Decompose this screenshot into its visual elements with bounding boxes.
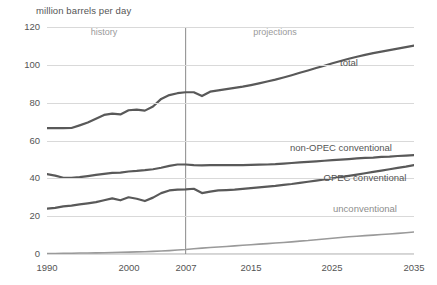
series-line-unconventional bbox=[47, 232, 414, 253]
x-tick-label-2000: 2000 bbox=[109, 262, 149, 273]
series-label-opec-conventional: OPEC conventional bbox=[324, 172, 407, 183]
plot-area: historyprojectionstotalnon-OPEC conventi… bbox=[47, 27, 414, 254]
gridline-y-100 bbox=[47, 65, 414, 66]
series-line-total bbox=[47, 46, 414, 129]
x-tick-label-2015: 2015 bbox=[231, 262, 271, 273]
y-tick-label-120: 120 bbox=[10, 22, 40, 32]
x-tick-label-2025: 2025 bbox=[312, 262, 352, 273]
y-tick-label-40: 40 bbox=[10, 173, 40, 183]
y-tick-label-80: 80 bbox=[10, 98, 40, 108]
x-axis-tick-labels: 199020002007201520252035 bbox=[47, 254, 414, 278]
x-tick-label-2007: 2007 bbox=[166, 262, 206, 273]
series-label-non-opec-conventional: non-OPEC conventional bbox=[290, 142, 392, 153]
y-axis-title: million barrels per day bbox=[36, 5, 131, 16]
gridline-y-80 bbox=[47, 103, 414, 104]
y-tick-label-100: 100 bbox=[10, 60, 40, 70]
x-tick-label-1990: 1990 bbox=[27, 262, 67, 273]
period-label-projections: projections bbox=[253, 27, 297, 37]
chart-figure: million barrels per day 020406080100120 … bbox=[0, 0, 437, 285]
y-tick-label-60: 60 bbox=[10, 136, 40, 146]
x-tick-label-2035: 2035 bbox=[394, 262, 434, 273]
y-tick-label-0: 0 bbox=[10, 249, 40, 259]
series-label-total: total bbox=[340, 57, 358, 68]
gridline-y-20 bbox=[47, 216, 414, 217]
y-axis-tick-labels: 020406080100120 bbox=[8, 27, 40, 254]
y-tick-label-20: 20 bbox=[10, 211, 40, 221]
period-label-history: history bbox=[91, 27, 118, 37]
series-label-unconventional: unconventional bbox=[333, 203, 397, 214]
